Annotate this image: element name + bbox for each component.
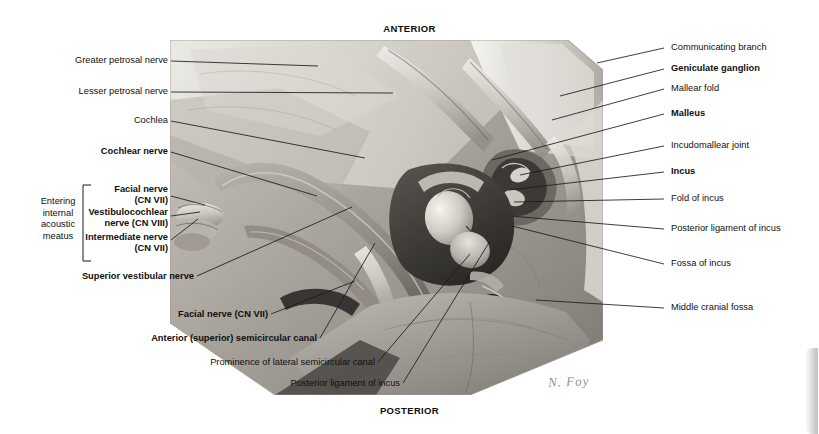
artist-signature: N. Foy [548, 373, 590, 390]
label-communicating-branch: Communicating branch [671, 42, 767, 53]
label-incudomallear-joint: Incudomallear joint [671, 140, 749, 151]
label-lesser-petrosal-nerve: Lesser petrosal nerve [0, 86, 168, 97]
brace-label-entering-internal-acoustic-meatus: Enteringinternalacousticmeatus [38, 196, 78, 242]
label-prominence-lateral-semicircular-canal: Prominence of lateral semicircular canal [0, 357, 375, 368]
label-posterior-ligament-of-incus-right: Posterior ligament of incus [671, 223, 781, 234]
label-facial-nerve-cn7-lower: Facial nerve (CN VII) [0, 309, 268, 320]
document-page: ANTERIOR POSTERIOR Greater petrosal nerv… [0, 0, 819, 434]
vertical-scrollbar-track[interactable] [805, 0, 819, 434]
vertical-scrollbar-thumb[interactable] [805, 348, 818, 434]
label-fossa-of-incus: Fossa of incus [671, 258, 731, 269]
label-malleus: Malleus [671, 108, 705, 119]
orientation-label-posterior: POSTERIOR [0, 405, 819, 416]
label-incus: Incus [671, 166, 695, 177]
orientation-label-anterior: ANTERIOR [0, 23, 819, 34]
entering-internal-acoustic-meatus-group: Enteringinternalacousticmeatus [38, 184, 168, 262]
label-anterior-semicircular-canal: Anterior (superior) semicircular canal [0, 333, 317, 344]
label-mallear-fold: Mallear fold [671, 83, 719, 94]
label-middle-cranial-fossa: Middle cranial fossa [671, 302, 753, 313]
label-cochlear-nerve: Cochlear nerve [0, 146, 168, 157]
label-posterior-ligament-of-incus-left: Posterior ligament of incus [0, 378, 400, 389]
label-cochlea: Cochlea [0, 115, 168, 126]
leader-communicating-branch [597, 48, 664, 63]
brace-icon [80, 184, 92, 262]
label-superior-vestibular-nerve: Superior vestibular nerve [0, 271, 194, 282]
label-greater-petrosal-nerve: Greater petrosal nerve [0, 55, 168, 66]
label-fold-of-incus: Fold of incus [671, 193, 724, 204]
label-geniculate-ganglion: Geniculate ganglion [671, 63, 760, 74]
